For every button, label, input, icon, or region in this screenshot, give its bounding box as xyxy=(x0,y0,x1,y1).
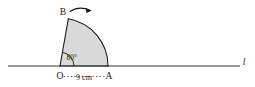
label-point-o: O xyxy=(57,71,64,81)
figure-canvas: O A B 80° 9 cm l xyxy=(0,0,255,87)
label-point-a: A xyxy=(106,71,113,81)
figure-background xyxy=(0,0,255,87)
label-point-b: B xyxy=(60,7,66,17)
label-radius-length: 9 cm xyxy=(76,73,93,82)
label-angle-80: 80° xyxy=(67,53,78,62)
geometry-figure: O A B 80° 9 cm l xyxy=(0,0,255,87)
label-line-l: l xyxy=(243,57,246,67)
